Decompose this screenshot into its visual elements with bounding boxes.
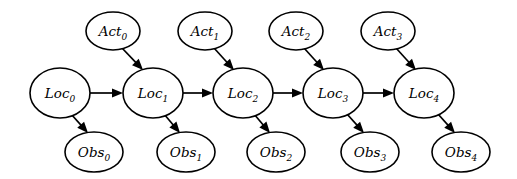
node-loc2[interactable]: Loc2	[213, 68, 273, 118]
node-act0[interactable]: Act0	[86, 12, 140, 50]
node-obs3[interactable]: Obs3	[341, 132, 399, 172]
edge-loc0-to-obs0	[71, 114, 88, 133]
node-loc3[interactable]: Loc3	[303, 68, 363, 118]
edge-loc1-to-loc2	[183, 88, 213, 97]
edge-act1-to-loc2	[214, 48, 234, 70]
node-act3[interactable]: Act3	[361, 12, 415, 50]
node-act2[interactable]: Act2	[269, 12, 323, 50]
edge-loc0-to-loc1	[90, 88, 123, 97]
edge-act2-to-loc3	[304, 48, 324, 70]
node-loc0[interactable]: Loc0	[30, 68, 90, 118]
diagram-canvas: Loc0Loc1Loc2Loc3Loc4Act0Act1Act2Act3Obs0…	[0, 0, 517, 179]
edge-loc2-to-obs2	[254, 114, 270, 133]
node-loc1[interactable]: Loc1	[123, 68, 183, 118]
node-obs2[interactable]: Obs2	[247, 132, 305, 172]
node-act1[interactable]: Act1	[178, 12, 232, 50]
node-obs1[interactable]: Obs1	[157, 132, 215, 172]
edge-loc4-to-obs4	[438, 114, 455, 133]
edge-act0-to-loc1	[122, 48, 143, 70]
bayesian-network-graph: Loc0Loc1Loc2Loc3Loc4Act0Act1Act2Act3Obs0…	[0, 0, 517, 179]
nodes-layer: Loc0Loc1Loc2Loc3Loc4Act0Act1Act2Act3Obs0…	[30, 12, 490, 172]
edge-loc3-to-loc4	[363, 88, 394, 97]
edge-act3-to-loc4	[396, 48, 416, 70]
node-obs4[interactable]: Obs4	[432, 132, 490, 172]
node-obs0[interactable]: Obs0	[65, 132, 123, 172]
edge-loc3-to-obs3	[347, 114, 364, 133]
edge-loc1-to-obs1	[164, 114, 180, 133]
node-loc4[interactable]: Loc4	[394, 68, 454, 118]
edge-loc2-to-loc3	[273, 88, 303, 97]
